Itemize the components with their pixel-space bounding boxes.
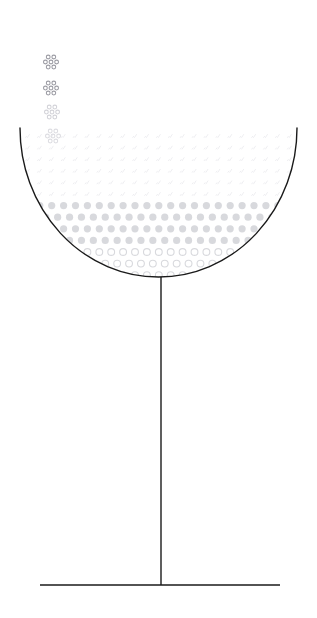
- bubble-filled: [120, 225, 127, 232]
- bubble-filled: [179, 202, 186, 209]
- bubble-filled: [227, 202, 234, 209]
- bubble-filled: [102, 214, 109, 221]
- bubble-filled: [108, 225, 115, 232]
- bubble-filled: [131, 225, 138, 232]
- bubble-filled: [185, 237, 192, 244]
- bubble-filled: [108, 202, 115, 209]
- bubble-filled: [72, 202, 79, 209]
- bubble-filled: [250, 202, 257, 209]
- bubble-filled: [149, 214, 156, 221]
- bubble-filled: [197, 214, 204, 221]
- bubble-filled: [90, 237, 97, 244]
- bubble-filled: [209, 214, 216, 221]
- bubble-filled: [244, 214, 251, 221]
- bubble-filled: [221, 214, 228, 221]
- bubble-filled: [221, 237, 228, 244]
- illustration-canvas: Glass with rising bubbles: [0, 0, 317, 618]
- bubble-filled: [149, 237, 156, 244]
- bubble-filled: [84, 225, 91, 232]
- bubble-filled: [143, 202, 150, 209]
- bubble-filled: [120, 202, 127, 209]
- bubble-filled: [233, 237, 240, 244]
- bubble-filled: [203, 202, 210, 209]
- bubble-filled: [114, 237, 121, 244]
- bubble-filled: [233, 214, 240, 221]
- bubble-filled: [143, 225, 150, 232]
- bubble-filled: [203, 225, 210, 232]
- bubble-filled: [155, 225, 162, 232]
- glass-illustration: [0, 0, 317, 618]
- bubble-filled: [227, 225, 234, 232]
- bubble-filled: [66, 214, 73, 221]
- bubble-filled: [215, 202, 222, 209]
- bubble-filled: [161, 237, 168, 244]
- bubble-filled: [239, 202, 246, 209]
- background: [0, 0, 317, 618]
- bubble-filled: [185, 214, 192, 221]
- bubble-filled: [60, 202, 67, 209]
- bubble-filled: [54, 214, 61, 221]
- bubble-filled: [137, 214, 144, 221]
- bubble-filled: [155, 202, 162, 209]
- bubble-filled: [209, 237, 216, 244]
- bubble-filled: [250, 225, 257, 232]
- bubble-filled: [114, 214, 121, 221]
- bubble-filled: [125, 214, 132, 221]
- bubble-filled: [96, 202, 103, 209]
- bubble-filled: [239, 225, 246, 232]
- bubble-filled: [161, 214, 168, 221]
- bubble-filled: [131, 202, 138, 209]
- bubble-filled: [125, 237, 132, 244]
- bubble-filled: [167, 225, 174, 232]
- bubble-filled: [167, 202, 174, 209]
- bubble-filled: [262, 202, 269, 209]
- bubble-filled: [78, 214, 85, 221]
- bubble-filled: [102, 237, 109, 244]
- bubble-filled: [179, 225, 186, 232]
- bubble-filled: [215, 225, 222, 232]
- bubble-filled: [256, 214, 263, 221]
- bubble-filled: [78, 237, 85, 244]
- bubble-filled: [72, 225, 79, 232]
- bubble-filled: [191, 225, 198, 232]
- bubble-filled: [173, 214, 180, 221]
- bubble-filled: [96, 225, 103, 232]
- bubble-filled: [48, 202, 55, 209]
- bubble-filled: [90, 214, 97, 221]
- bubble-filled: [197, 237, 204, 244]
- bubble-filled: [173, 237, 180, 244]
- bubble-filled: [191, 202, 198, 209]
- bubble-filled: [84, 202, 91, 209]
- bubble-filled: [137, 237, 144, 244]
- bubble-filled: [60, 225, 67, 232]
